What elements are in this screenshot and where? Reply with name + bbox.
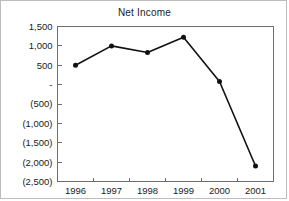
x-axis-tick-label: 1998	[137, 185, 158, 196]
y-axis-tick-labels: 1,5001,000500-(500)(1,000)(1,500)(2,000)…	[22, 21, 52, 187]
y-axis-tick-label: -	[49, 79, 52, 90]
x-axis-tick-label: 1996	[65, 185, 86, 196]
x-axis-tick-labels: 199619971998199920002001	[65, 185, 266, 196]
y-axis-tick-label: (1,500)	[22, 137, 52, 148]
net-income-data-points	[73, 35, 258, 169]
y-axis-tick-label: 1,500	[29, 21, 53, 32]
y-axis-tick-label: 1,000	[29, 40, 53, 51]
data-point-marker	[145, 50, 150, 55]
y-axis-tick-label: (1,000)	[22, 118, 52, 129]
data-point-marker	[253, 164, 258, 169]
x-axis-tick-label: 1999	[173, 185, 194, 196]
chart-container: Net Income 1,5001,000500-(500)(1,000)(1,…	[0, 0, 287, 199]
data-point-marker	[181, 35, 186, 40]
data-point-marker	[109, 43, 114, 48]
plot-axis-frame	[58, 27, 274, 182]
y-axis-tick-label: (2,500)	[22, 176, 52, 187]
x-axis-tick-label: 2000	[209, 185, 230, 196]
y-axis-tick-label: 500	[37, 60, 53, 71]
y-axis-tick-label: (500)	[30, 98, 52, 109]
data-point-marker	[73, 63, 78, 68]
y-axis-tick-label: (2,000)	[22, 157, 52, 168]
axis-tick-marks	[58, 46, 238, 182]
net-income-line	[76, 37, 256, 166]
data-point-marker	[217, 79, 222, 84]
x-axis-tick-label: 1997	[101, 185, 122, 196]
line-chart-plot: 1,5001,000500-(500)(1,000)(1,500)(2,000)…	[1, 1, 288, 200]
x-axis-tick-label: 2001	[245, 185, 266, 196]
